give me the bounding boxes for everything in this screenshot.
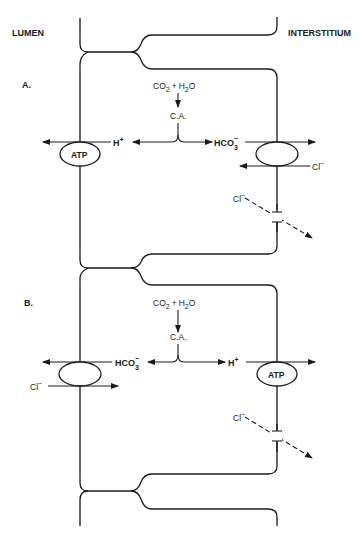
panel-b-label: B. (24, 298, 33, 308)
h-ion-b: H+ (228, 356, 239, 368)
cl-channel-b (272, 424, 282, 452)
flux-to-hco3-b (148, 344, 178, 362)
interstitium-label: INTERSTITIUM (288, 28, 351, 38)
panel-b: CO2+H2O C.A. HCO3− Cl− H+ ATP Cl− (30, 298, 315, 458)
cl-channel-ion-b: Cl− (233, 411, 245, 423)
atp-label-b: ATP (268, 370, 285, 380)
flux-to-h-a (133, 123, 178, 142)
enzyme-b: C.A. (170, 332, 187, 342)
cl-exchange-ion-b: Cl− (30, 380, 42, 392)
reaction-b: CO2+H2O (153, 298, 196, 310)
hco3-ion-a: HCO3− (214, 135, 238, 151)
enzyme-a: C.A. (170, 111, 187, 121)
flux-to-hco3-a (178, 135, 212, 142)
lumen-label: LUMEN (12, 28, 44, 38)
atp-label-a: ATP (71, 150, 88, 160)
panel-a: CO2+H2O C.A. H+ ATP HCO3− Cl− Cl− (43, 81, 324, 238)
panel-a-label: A. (22, 80, 31, 90)
hco3-ion-b: HCO3− (115, 355, 139, 371)
cl-hco3-exchanger-a (256, 142, 298, 166)
reaction-a: CO2+H2O (153, 81, 196, 93)
cl-exchange-ion-a: Cl− (312, 160, 324, 172)
cl-hco3-exchanger-b (59, 362, 101, 386)
h-ion-a: H+ (113, 136, 124, 148)
cl-channel-a (272, 204, 282, 232)
cl-channel-ion-a: Cl− (233, 192, 245, 204)
renal-intercalated-cell-diagram: LUMEN INTERSTITIUM A. B. CO2+H2O C.A. H+… (0, 0, 363, 541)
flux-to-h-b (178, 355, 225, 362)
